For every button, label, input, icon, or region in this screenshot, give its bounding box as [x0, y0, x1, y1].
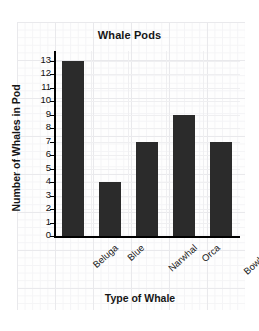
y-tick-label: 0	[31, 229, 51, 240]
y-tick-label: 13	[31, 54, 51, 65]
plot-area: 131211109876543210 BelugaBlueNarwhalOrca…	[54, 57, 240, 238]
y-tick-label: 7	[31, 135, 51, 146]
bar-bowhead	[210, 142, 232, 236]
gridline-vertical	[91, 51, 92, 238]
gridline-vertical	[128, 51, 129, 238]
bar-narwhal	[136, 142, 158, 236]
y-axis-title: Number of Whales in Pod	[10, 68, 22, 228]
bar-blue	[99, 182, 121, 236]
gridline-horizontal	[56, 101, 240, 102]
bar-orca	[173, 115, 195, 236]
gridline-vertical	[166, 51, 167, 238]
y-tick-label: 6	[31, 148, 51, 159]
bar-beluga	[62, 61, 84, 236]
y-tick-label: 12	[31, 67, 51, 78]
y-tick-label: 3	[31, 189, 51, 200]
gridline-horizontal	[56, 128, 240, 129]
y-tick-label: 2	[31, 202, 51, 213]
x-axis-line	[54, 236, 240, 238]
x-axis-title: Type of Whale	[40, 292, 240, 304]
y-tick-label: 11	[31, 81, 51, 92]
y-tick-label: 9	[31, 108, 51, 119]
gridline-horizontal	[56, 74, 240, 75]
chart-screenshot: Whale Pods Number of Whales in Pod Type …	[0, 0, 259, 331]
gridline-vertical	[203, 51, 204, 238]
y-tick-label: 8	[31, 121, 51, 132]
y-tick-label: 10	[31, 94, 51, 105]
y-tick-label: 4	[31, 175, 51, 186]
y-tick-label: 1	[31, 216, 51, 227]
gridline-horizontal	[56, 115, 240, 116]
y-tick-label: 5	[31, 162, 51, 173]
gridline-horizontal	[56, 61, 240, 62]
gridline-horizontal	[56, 88, 240, 89]
chart-title: Whale Pods	[0, 29, 259, 41]
